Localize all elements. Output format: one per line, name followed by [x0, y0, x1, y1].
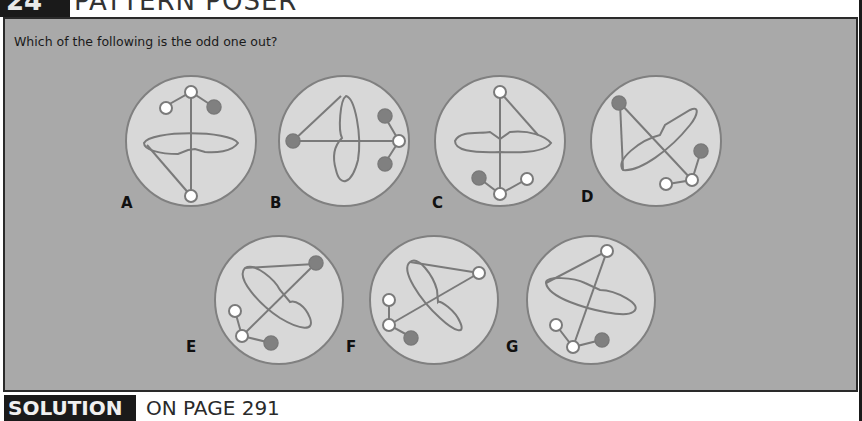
option-c-figure[interactable]: C [432, 76, 565, 212]
option-b-figure[interactable]: B [270, 76, 409, 212]
option-label-g: G [506, 338, 518, 356]
option-g-figure[interactable]: G [506, 236, 655, 364]
option-e-figure[interactable]: E [186, 236, 343, 364]
option-label-c: C [432, 194, 443, 212]
option-label-b: B [270, 194, 281, 212]
solution-page-reference: ON PAGE 291 [146, 395, 280, 421]
option-a-figure[interactable]: A [121, 76, 256, 212]
option-label-a: A [121, 194, 133, 212]
option-d-figure[interactable]: D [581, 76, 721, 206]
solution-tag: SOLUTION [4, 395, 136, 421]
option-label-d: D [581, 188, 593, 206]
option-label-f: F [346, 338, 356, 356]
option-label-e: E [186, 338, 196, 356]
puzzle-figures: .c { fill: #d8d8d8; stroke: #808080; str… [0, 0, 862, 421]
option-f-figure[interactable]: F [346, 236, 498, 364]
